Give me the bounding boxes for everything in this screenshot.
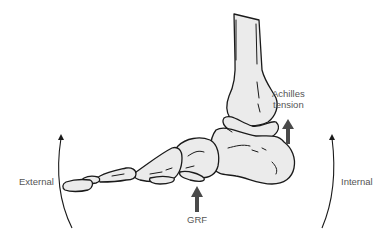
foot-skeleton-illustration bbox=[0, 0, 388, 246]
distal-phalanx-bone bbox=[63, 180, 93, 192]
internal-rotation-arrow bbox=[322, 134, 335, 228]
achilles-label-line1: Achilles bbox=[272, 88, 305, 99]
achilles-label-line2: tension bbox=[272, 99, 305, 110]
calcaneus-bone bbox=[211, 128, 295, 184]
achilles-tension-arrow bbox=[282, 119, 294, 144]
external-label: External bbox=[19, 176, 54, 187]
tibia-bone bbox=[227, 14, 277, 126]
grf-label: GRF bbox=[187, 214, 207, 225]
achilles-tension-label: Achilles tension bbox=[272, 88, 305, 110]
internal-label: Internal bbox=[341, 176, 373, 187]
foot-biomechanics-diagram: Achilles tension GRF External Internal bbox=[0, 0, 388, 246]
grf-arrow bbox=[191, 186, 203, 212]
metatarsal-lower-bone bbox=[150, 177, 175, 185]
